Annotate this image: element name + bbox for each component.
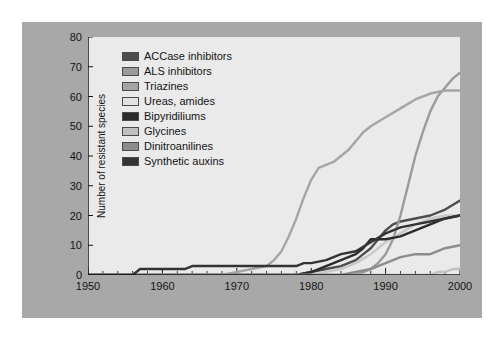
y-tick-label: 40 <box>70 150 82 162</box>
legend-label: Dinitroanilines <box>144 140 213 152</box>
legend-item[interactable]: Ureas, amides <box>122 94 232 108</box>
legend-label: Triazines <box>144 80 188 92</box>
y-axis-label: Number of resistant species <box>96 94 107 218</box>
legend-swatch-icon <box>122 97 139 106</box>
legend-swatch-icon <box>122 127 139 136</box>
legend-item[interactable]: Glycines <box>122 124 232 138</box>
y-tick-label: 30 <box>70 180 82 192</box>
legend-swatch-icon <box>122 112 139 121</box>
y-tick-label: 20 <box>70 210 82 222</box>
legend-swatch-icon <box>122 67 139 76</box>
plot-area: Number of resistant species 010203040506… <box>88 37 460 275</box>
y-tick-label: 80 <box>70 31 82 43</box>
legend-label: ALS inhibitors <box>144 65 212 77</box>
x-tick-label: 1970 <box>225 280 249 292</box>
x-tick-label: 1950 <box>76 280 100 292</box>
legend-item[interactable]: ACCase inhibitors <box>122 49 232 63</box>
legend-item[interactable]: ALS inhibitors <box>122 64 232 78</box>
legend-label: ACCase inhibitors <box>144 50 232 62</box>
y-tick-label: 50 <box>70 120 82 132</box>
legend-swatch-icon <box>122 142 139 151</box>
series-line <box>88 201 460 275</box>
legend-swatch-icon <box>122 82 139 91</box>
chart-legend: ACCase inhibitorsALS inhibitorsTriazines… <box>122 49 232 168</box>
y-tick-label: 70 <box>70 61 82 73</box>
legend-item[interactable]: Bipyridiliums <box>122 109 232 123</box>
legend-label: Ureas, amides <box>144 95 215 107</box>
series-line <box>88 216 460 276</box>
figure-panel: Number of resistant species 010203040506… <box>22 22 482 318</box>
x-tick-label: 1980 <box>299 280 323 292</box>
legend-item[interactable]: Synthetic auxins <box>122 154 232 168</box>
x-tick-label: 1990 <box>373 280 397 292</box>
legend-label: Synthetic auxins <box>144 155 224 167</box>
x-tick-label: 2000 <box>448 280 472 292</box>
x-tick-label: 1960 <box>150 280 174 292</box>
legend-item[interactable]: Triazines <box>122 79 232 93</box>
legend-label: Glycines <box>144 125 186 137</box>
legend-item[interactable]: Dinitroanilines <box>122 139 232 153</box>
y-tick-label: 10 <box>70 239 82 251</box>
legend-label: Bipyridiliums <box>144 110 206 122</box>
legend-swatch-icon <box>122 157 139 166</box>
legend-swatch-icon <box>122 52 139 61</box>
y-tick-label: 60 <box>70 91 82 103</box>
